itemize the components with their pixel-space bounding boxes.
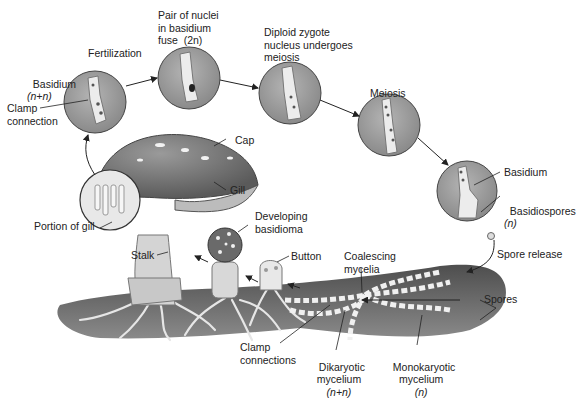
label-meiosis: Meiosis [370, 87, 406, 100]
label-monokaryotic-mycelium: Monokaryotic mycelium(n) [387, 348, 455, 398]
label-dikaryotic-mycelium: Dikaryotic mycelium(n+n) [313, 348, 365, 398]
label-basidium: Basidium [504, 166, 547, 179]
label-clamp-connection: Clamp connection [7, 102, 58, 127]
label-diploid-zygote: Diploid zygote nucleus undergoes meiosis [264, 26, 353, 64]
label-spores: Spores [484, 293, 517, 306]
label-gill: Gill [230, 184, 245, 197]
label-portion-of-gill: Portion of gill [34, 220, 95, 233]
label-coalescing-mycelia: Coalescing mycelia [344, 250, 396, 275]
label-cap: Cap [235, 134, 254, 147]
released-spore [488, 233, 495, 240]
label-basidium-nn: Basidium(n+n) [27, 65, 76, 103]
label-button: Button [291, 250, 321, 263]
label-clamp-connections: Clamp connections [240, 341, 296, 366]
label-nuclei-fuse: Pair of nuclei in basidium fuse (2n) [158, 9, 219, 47]
label-basidiospores: Basidiospores(n) [504, 192, 576, 230]
label-stalk: Stalk [131, 249, 154, 262]
button-stage [260, 261, 282, 291]
label-developing-basidioma: Developing basidioma [255, 210, 308, 235]
label-fertilization: Fertilization [88, 47, 142, 60]
developing-basidioma [208, 228, 242, 298]
label-spore-release: Spore release [497, 248, 562, 261]
